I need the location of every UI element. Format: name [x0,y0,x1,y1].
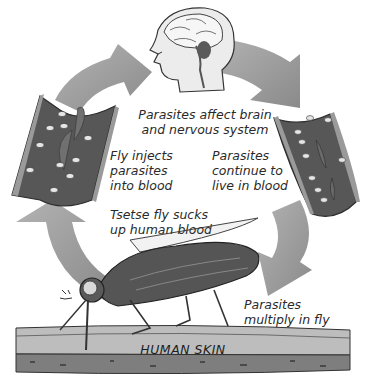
label-inject-line-1: Fly injects [110,148,173,163]
label-sucks-line-1: Tsetse fly sucks [110,207,212,222]
label-brain-line-1: Parasites affect brain [130,107,280,122]
label-continue-line-2: continue to [212,163,288,178]
label-brain-line-2: and nervous system [130,122,280,137]
label-multiply-line-2: multiply in fly [244,312,330,327]
label-parasites-continue: Parasites continue to live in blood [212,148,288,193]
label-continue-line-1: Parasites [212,148,288,163]
label-human-skin: HUMAN SKIN [128,342,238,357]
label-inject-line-2: parasites [110,163,173,178]
label-fly-injects: Fly injects parasites into blood [110,148,173,193]
label-sucks-line-2: up human blood [110,222,212,237]
label-continue-line-3: live in blood [212,178,288,193]
label-multiply-line-1: Parasites [244,297,330,312]
label-inject-line-3: into blood [110,178,173,193]
label-brain: Parasites affect brain and nervous syste… [130,107,280,137]
label-tsetse-sucks: Tsetse fly sucks up human blood [110,207,212,237]
arrow-right-vessel-to-fly-arrow [258,200,312,296]
arrow-to-head [55,44,152,112]
blood-vessel-left-icon [12,94,119,206]
label-parasites-multiply: Parasites multiply in fly [244,297,330,327]
human-head-brain-icon [150,8,234,92]
